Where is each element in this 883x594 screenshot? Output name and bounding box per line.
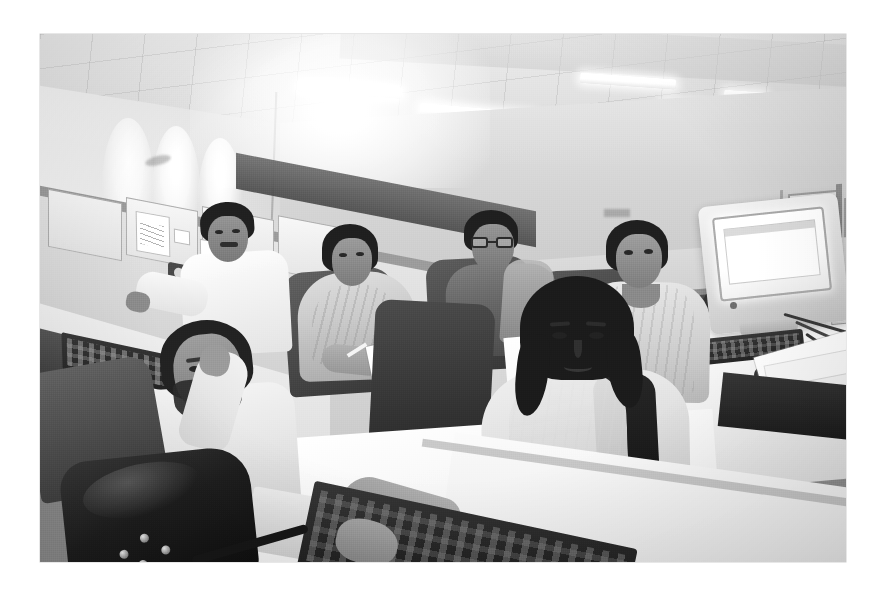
person-nose (574, 340, 582, 358)
on-screen-window (723, 219, 820, 284)
power-led (730, 302, 737, 309)
person-eye (339, 253, 347, 257)
person-face (472, 224, 514, 272)
person-smile (628, 269, 650, 277)
person-eye (552, 332, 567, 339)
overexposed-highlight (190, 34, 490, 188)
person-eye (644, 249, 653, 254)
page-canvas (0, 0, 883, 594)
person-face (332, 238, 372, 286)
person-eye (356, 252, 364, 256)
person-smile (564, 362, 592, 372)
eyeglasses-icon (470, 237, 516, 248)
person-eye (589, 332, 604, 339)
wall-sign (604, 209, 630, 217)
person-face (616, 234, 662, 288)
person-face (208, 216, 248, 262)
person-moustache (220, 242, 238, 247)
person-eye (624, 250, 633, 255)
pinned-note-writing (140, 222, 164, 249)
person-eye (232, 229, 240, 233)
office-photograph (40, 34, 846, 562)
person-eye (215, 230, 223, 234)
pinned-note (174, 229, 190, 246)
